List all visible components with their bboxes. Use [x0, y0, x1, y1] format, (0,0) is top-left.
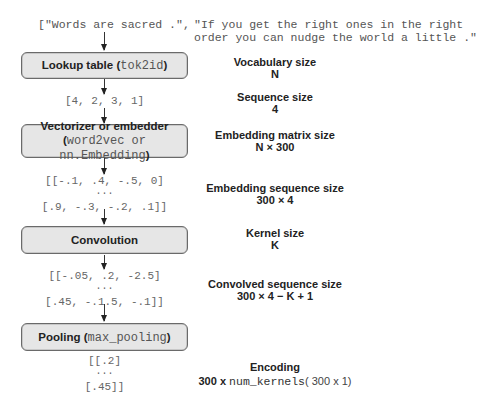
annotation-kernel-size: Kernel size K [175, 227, 375, 251]
annotation-title: Vocabulary size [234, 56, 316, 68]
arrow-down-icon [104, 304, 105, 321]
arrow-down-icon [104, 32, 105, 50]
vectorizer-code: word2vec or nn.Embedding [59, 134, 146, 163]
annotation-value: K [175, 239, 375, 251]
arrow-down-icon [104, 209, 105, 224]
input-sentence-2-line-1: "If you get the right ones in the right [194, 18, 463, 31]
annotation-title: Kernel size [246, 227, 304, 239]
lookup-table-label: Lookup table (tok2id) [42, 58, 168, 73]
annotation-value: 4 [175, 103, 375, 115]
pooling-box: Pooling (max_pooling) [21, 323, 188, 351]
annotation-convolved-sequence-size: Convolved sequence size 300 × 4 − K + 1 [175, 278, 375, 302]
pooling-title: Pooling [38, 331, 80, 343]
encoding-suffix: ( 300 x 1) [305, 375, 351, 387]
vectorizer-box: Vectorizer or embedder (word2vec or nn.E… [21, 124, 188, 158]
arrow-down-icon [104, 158, 105, 174]
pooling-label: Pooling (max_pooling) [38, 330, 170, 345]
annotation-value: N [175, 68, 375, 80]
arrow-down-icon [104, 255, 105, 269]
input-sentence-1: ["Words are sacred .", [38, 18, 190, 31]
paren-close: ) [167, 331, 171, 343]
convolution-box: Convolution [21, 226, 188, 254]
paren-close: ) [146, 149, 150, 161]
annotation-value: 300 x num_kernels( 300 x 1) [155, 375, 395, 388]
embedding-output-ellipsis: ... [21, 187, 188, 197]
annotation-title: Encoding [250, 361, 300, 373]
paren-close: ) [163, 59, 167, 71]
annotation-value: N × 300 [175, 141, 375, 153]
arrow-down-icon [104, 79, 105, 94]
token-ids-output: [4, 2, 3, 1] [21, 95, 188, 107]
annotation-embedding-matrix-size: Embedding matrix size N × 300 [175, 129, 375, 153]
convolved-output-ellipsis: ... [21, 282, 188, 292]
pooling-code: max_pooling [88, 331, 167, 345]
vectorizer-title: Vectorizer or embedder [41, 119, 169, 133]
input-sentence-2-line-2: order you can nudge the world a little .… [194, 31, 477, 44]
lookup-table-box: Lookup table (tok2id) [21, 52, 188, 79]
annotation-encoding: Encoding 300 x num_kernels( 300 x 1) [155, 361, 395, 388]
annotation-embedding-sequence-size: Embedding sequence size 300 × 4 [175, 182, 375, 206]
annotation-title: Embedding matrix size [215, 129, 335, 141]
annotation-title: Convolved sequence size [208, 278, 342, 290]
annotation-title: Embedding sequence size [206, 182, 344, 194]
annotation-value: 300 × 4 − K + 1 [175, 290, 375, 302]
encoding-prefix: 300 x [199, 375, 230, 387]
annotation-vocabulary-size: Vocabulary size N [175, 56, 375, 80]
annotation-sequence-size: Sequence size 4 [175, 91, 375, 115]
annotation-title: Sequence size [237, 91, 313, 103]
lookup-table-title: Lookup table [42, 59, 114, 71]
convolution-title: Convolution [71, 233, 138, 247]
lookup-table-code: tok2id [120, 59, 163, 73]
annotation-value: 300 × 4 [175, 194, 375, 206]
encoding-code: num_kernels [229, 375, 305, 388]
